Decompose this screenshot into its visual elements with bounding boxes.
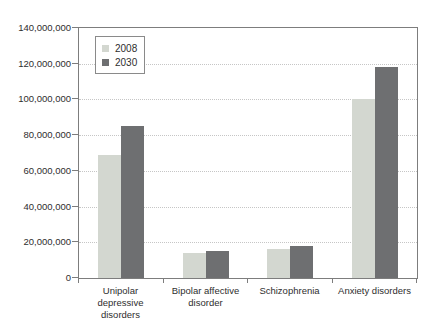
y-axis-tick <box>72 277 78 278</box>
y-axis-label: 140,000,000 <box>0 22 71 33</box>
x-axis-tick <box>247 279 248 283</box>
x-axis-tick <box>416 279 417 283</box>
y-axis-tick <box>72 98 78 99</box>
y-axis-label: 120,000,000 <box>0 58 71 69</box>
bar-2030-category-1 <box>121 126 144 278</box>
x-axis-label: Schizophrenia <box>247 285 332 297</box>
x-axis-tick <box>163 279 164 283</box>
x-axis-tick <box>78 279 79 283</box>
y-axis-label: 100,000,000 <box>0 93 71 104</box>
bar-2030-category-2 <box>206 251 229 278</box>
bar-2008-category-1 <box>98 155 121 278</box>
y-axis-label: 60,000,000 <box>0 165 71 176</box>
y-axis-tick <box>72 134 78 135</box>
y-axis-tick <box>72 170 78 171</box>
x-axis-label: Unipolar depressive disorders <box>78 285 163 321</box>
bar-chart-figure: 2008 2030 020,000,00040,000,00060,000,00… <box>0 0 437 334</box>
x-axis-label: Anxiety disorders <box>332 285 417 297</box>
y-axis-tick <box>72 63 78 64</box>
y-axis-label: 20,000,000 <box>0 236 71 247</box>
y-axis-tick <box>72 27 78 28</box>
y-axis-label: 80,000,000 <box>0 129 71 140</box>
bar-2008-category-4 <box>352 99 375 278</box>
legend-label-2030: 2030 <box>115 57 137 68</box>
y-axis-label: 0 <box>0 272 71 283</box>
bar-2030-category-4 <box>375 67 398 278</box>
bar-2030-category-3 <box>290 246 313 278</box>
x-axis-label: Bipolar affective disorder <box>163 285 248 309</box>
legend-swatch-2008 <box>102 45 109 52</box>
chart-legend: 2008 2030 <box>95 36 145 74</box>
y-axis-tick <box>72 206 78 207</box>
legend-swatch-2030 <box>102 59 109 66</box>
x-axis-tick <box>332 279 333 283</box>
legend-label-2008: 2008 <box>115 43 137 54</box>
legend-entry-2030: 2030 <box>102 55 137 69</box>
y-axis-tick <box>72 241 78 242</box>
bar-2008-category-2 <box>183 253 206 278</box>
legend-entry-2008: 2008 <box>102 41 137 55</box>
y-axis-label: 40,000,000 <box>0 201 71 212</box>
bar-2008-category-3 <box>267 249 290 278</box>
